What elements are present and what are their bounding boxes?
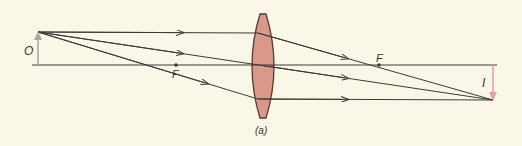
object-label: O [24, 44, 33, 58]
focal-label-right: F [376, 52, 384, 64]
object-arrow [34, 31, 42, 65]
focal-label-left: F [172, 68, 180, 80]
focal-point-left [174, 63, 178, 67]
image-label: I [482, 76, 486, 90]
diagram-canvas: O I F F (a) [0, 0, 522, 146]
image-arrow [489, 65, 497, 101]
lens-ray-diagram: O I F F (a) [0, 0, 522, 146]
figure-caption: (a) [255, 125, 267, 136]
